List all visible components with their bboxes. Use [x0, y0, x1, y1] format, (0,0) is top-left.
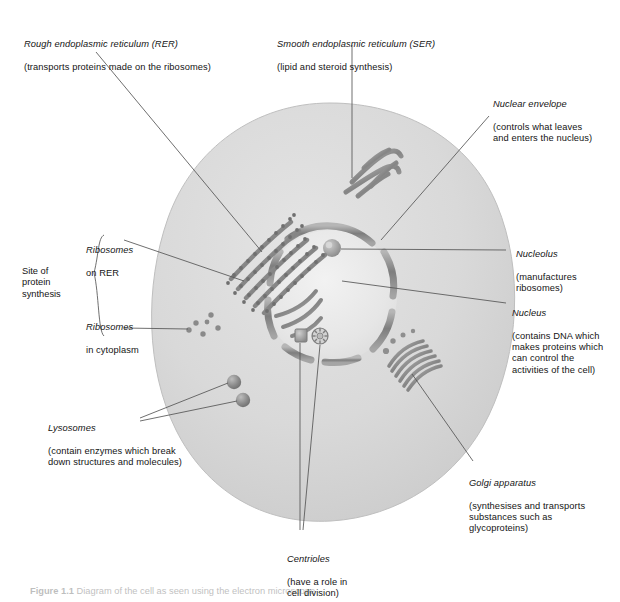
label-ribosomes-on-rer: Ribosomes on RER — [86, 234, 158, 290]
label-nucleolus-title: Nucleolus — [516, 249, 620, 260]
label-site-of-protein-synthesis: Site of protein synthesis — [22, 266, 92, 300]
label-rough-er: Rough endoplasmic reticulum (RER) (trans… — [24, 28, 274, 84]
label-golgi-detail: (synthesises and transports substances s… — [469, 501, 620, 535]
protein-synthesis-line-1: Site of — [22, 266, 92, 277]
label-lysosomes-title: Lysosomes — [48, 423, 248, 434]
label-smooth-er: Smooth endoplasmic reticulum (SER) (lipi… — [277, 28, 497, 84]
label-rough-er-title: Rough endoplasmic reticulum (RER) — [24, 39, 274, 50]
label-golgi-title: Golgi apparatus — [469, 478, 620, 489]
label-golgi-apparatus: Golgi apparatus (synthesises and transpo… — [469, 467, 620, 546]
label-lysosomes-detail: (contain enzymes which break down struct… — [48, 446, 248, 469]
label-ribosomes-on-rer-detail: on RER — [86, 268, 158, 279]
label-smooth-er-detail: (lipid and steroid synthesis) — [277, 62, 497, 73]
protein-synthesis-line-2: protein — [22, 277, 92, 288]
label-ribosomes-in-cytoplasm: Ribosomes in cytoplasm — [86, 311, 166, 367]
label-nucleus-detail: (contains DNA which makes proteins which… — [512, 331, 620, 376]
label-nucleus: Nucleus (contains DNA which makes protei… — [512, 297, 620, 387]
figure-caption-number: Figure 1.1 — [30, 586, 74, 596]
label-smooth-er-title: Smooth endoplasmic reticulum (SER) — [277, 39, 497, 50]
label-nuclear-envelope-title: Nuclear envelope — [493, 99, 618, 110]
label-nuclear-envelope-detail: (controls what leaves and enters the nuc… — [493, 122, 618, 145]
label-lysosomes: Lysosomes (contain enzymes which break d… — [48, 412, 248, 480]
label-nuclear-envelope: Nuclear envelope (controls what leaves a… — [493, 88, 618, 156]
label-ribosomes-on-rer-title: Ribosomes — [86, 245, 158, 256]
label-nucleus-title: Nucleus — [512, 308, 620, 319]
label-centrioles-title: Centrioles — [287, 554, 397, 565]
label-ribosomes-in-cytoplasm-detail: in cytoplasm — [86, 345, 166, 356]
protein-synthesis-line-3: synthesis — [22, 289, 92, 300]
figure-caption-text: Diagram of the cell as seen using the el… — [77, 586, 316, 596]
label-ribosomes-in-cytoplasm-title: Ribosomes — [86, 322, 166, 333]
label-nucleolus-detail: (manufactures ribosomes) — [516, 272, 620, 295]
label-nucleolus: Nucleolus (manufactures ribosomes) — [516, 238, 620, 306]
figure-caption: Figure 1.1 Diagram of the cell as seen u… — [30, 586, 315, 596]
label-rough-er-detail: (transports proteins made on the ribosom… — [24, 62, 274, 73]
